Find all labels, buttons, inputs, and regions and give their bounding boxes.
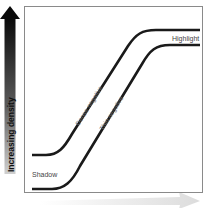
characteristic-curve-diagram: Increasing density Dense negative Thin n…: [0, 0, 211, 208]
exposure-arrow: [40, 192, 200, 208]
increasing-density-arrow: Increasing density: [0, 6, 20, 174]
arrow-right-icon: [40, 192, 200, 208]
shadow-label: Shadow: [32, 171, 58, 178]
highlight-label: Highlight: [172, 35, 199, 43]
y-axis-label: Increasing density: [6, 97, 16, 172]
arrow-up-icon: [0, 6, 20, 19]
